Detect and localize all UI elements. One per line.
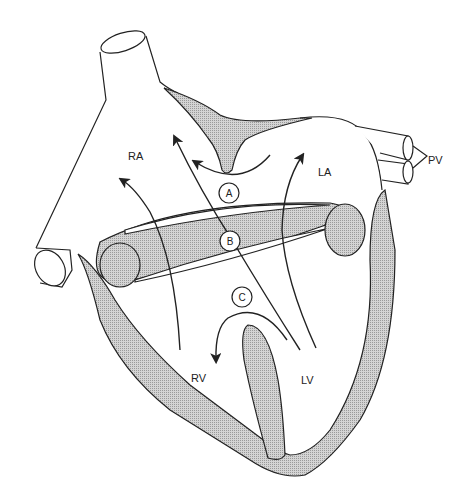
- marker-c: C: [232, 287, 252, 307]
- label-lv: LV: [301, 374, 314, 386]
- label-rv: RV: [191, 372, 207, 384]
- label-ra: RA: [128, 150, 144, 162]
- label-pv: PV: [428, 154, 443, 166]
- svg-text:B: B: [227, 236, 234, 247]
- label-la: LA: [318, 166, 332, 178]
- marker-a: A: [219, 183, 239, 203]
- left-atrium-outline: [300, 117, 382, 190]
- inferior-vena-cava: [28, 245, 72, 292]
- pulmonary-veins: [355, 126, 427, 184]
- heart-diagram: A B C RA LA RV LV PV: [0, 0, 467, 502]
- svg-text:C: C: [238, 292, 245, 303]
- svg-text:A: A: [226, 188, 233, 199]
- marker-b: B: [220, 231, 240, 251]
- right-atrium-outline: [36, 26, 178, 248]
